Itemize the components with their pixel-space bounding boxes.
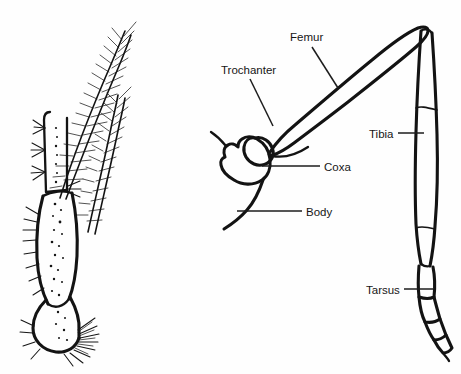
right-leg-schematic: Femur Trochanter Coxa Body Tibia Tarsus xyxy=(211,27,452,361)
leg-segment-main xyxy=(23,191,77,306)
tibia-distal-end xyxy=(421,264,430,267)
left-leg-drawing xyxy=(20,22,136,366)
tibia-constriction-lower xyxy=(416,227,435,229)
leader-femur xyxy=(312,47,338,88)
tarsus-outline xyxy=(418,266,452,361)
leg-segment-upper xyxy=(31,112,81,197)
label-trochanter: Trochanter xyxy=(221,64,276,76)
tibia-outline-right xyxy=(430,33,437,266)
label-tibia: Tibia xyxy=(369,128,394,140)
coxa-spur xyxy=(211,132,226,146)
anatomy-figure: Femur Trochanter Coxa Body Tibia Tarsus xyxy=(0,0,461,374)
leader-trochanter xyxy=(250,79,273,126)
label-body: Body xyxy=(306,206,332,218)
tibia-outline xyxy=(415,31,421,264)
label-femur: Femur xyxy=(290,31,323,43)
label-coxa: Coxa xyxy=(324,161,351,173)
label-tarsus: Tarsus xyxy=(366,284,400,296)
femur-outline xyxy=(269,27,428,155)
tibia-constriction-upper xyxy=(416,107,437,110)
figure-root: Femur Trochanter Coxa Body Tibia Tarsus xyxy=(0,0,461,374)
body-outline xyxy=(224,180,263,229)
